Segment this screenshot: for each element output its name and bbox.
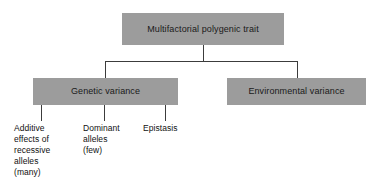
node-multifactorial-polygenic-trait: Multifactorial polygenic trait bbox=[122, 13, 284, 45]
connector-horizontal-bus bbox=[105, 61, 298, 62]
diagram-canvas: Multifactorial polygenic trait Genetic v… bbox=[0, 0, 382, 192]
connector-stem-epistasis bbox=[165, 105, 166, 121]
connector-stem-additive bbox=[41, 105, 42, 121]
connector-stem-dominant bbox=[104, 105, 105, 121]
connector-root-stem bbox=[203, 45, 204, 62]
node-label-root: Multifactorial polygenic trait bbox=[147, 24, 259, 35]
node-genetic-variance: Genetic variance bbox=[33, 78, 178, 105]
node-label-environmental-variance: Environmental variance bbox=[248, 86, 344, 97]
connector-drop-environmental-variance bbox=[297, 61, 298, 78]
leaf-epistasis: Epistasis bbox=[143, 123, 203, 134]
leaf-additive-effects-of-recessive-alleles: Additive effects of recessive alleles (m… bbox=[14, 123, 74, 178]
node-label-genetic-variance: Genetic variance bbox=[71, 86, 140, 97]
leaf-dominant-alleles: Dominant alleles (few) bbox=[83, 123, 141, 156]
node-environmental-variance: Environmental variance bbox=[227, 78, 366, 105]
connector-drop-genetic-variance bbox=[105, 61, 106, 78]
